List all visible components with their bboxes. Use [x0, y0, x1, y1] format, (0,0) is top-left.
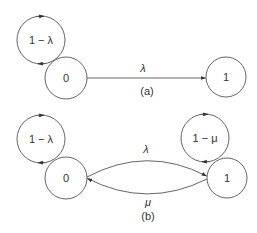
- self-loop-label: 1 − λ: [29, 34, 54, 46]
- state-label: 1: [223, 71, 229, 83]
- panel-caption: (b): [141, 210, 154, 222]
- panel-a: 1 − λ 0 λ 1 (a): [17, 16, 246, 99]
- self-loop-label: 1 − μ: [193, 132, 218, 144]
- state-1-b: 1: [207, 158, 247, 198]
- transition-label: μ: [144, 196, 151, 208]
- self-loop-state-1-b: 1 − μ: [181, 114, 229, 162]
- transition-0-to-1-b: λ: [87, 143, 207, 177]
- panel-b: 1 − λ 0 1 − μ 1 λ μ (b): [17, 114, 247, 222]
- state-label: 0: [63, 72, 69, 84]
- self-loop-state-0-a: 1 − λ: [17, 16, 65, 64]
- state-0-a: 0: [45, 57, 87, 99]
- panel-caption: (a): [140, 85, 153, 97]
- state-1-a: 1: [206, 57, 246, 97]
- self-loop-label: 1 − λ: [29, 133, 54, 145]
- transition-1-to-0-b: μ: [88, 179, 208, 209]
- transition-label: λ: [142, 143, 148, 155]
- state-label: 0: [63, 172, 69, 184]
- state-label: 1: [224, 172, 230, 184]
- markov-chain-diagram: 1 − λ 0 λ 1 (a) 1 − λ 0: [0, 0, 257, 233]
- self-loop-state-0-b: 1 − λ: [17, 115, 65, 163]
- state-0-b: 0: [45, 157, 87, 199]
- transition-label: λ: [139, 62, 145, 74]
- transition-0-to-1-a: λ: [87, 62, 206, 78]
